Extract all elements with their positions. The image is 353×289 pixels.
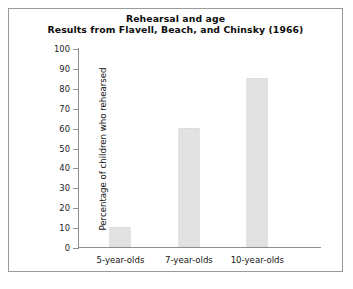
bar-2 [247,78,268,247]
chart-figure: Rehearsal and age Results from Flavell, … [8,8,343,272]
chart-title-block: Rehearsal and age Results from Flavell, … [9,14,342,36]
y-tick-label-10: 10 [59,223,70,233]
x-tick-label-1: 7-year-olds [165,255,213,265]
x-tick-label-2: 10-year-olds [231,255,284,265]
y-tick-label-90: 90 [59,64,70,74]
y-tick-90 [73,69,78,70]
y-tick-label-20: 20 [59,203,70,213]
y-tick-label-70: 70 [59,104,70,114]
y-tick-label-100: 100 [54,44,70,54]
bar-0 [110,227,131,247]
y-tick-label-30: 30 [59,183,70,193]
x-axis-line [78,247,321,248]
y-tick-50 [73,149,78,150]
plot-area: Percentage of children who rehearsed 0 1… [78,49,321,248]
y-tick-30 [73,188,78,189]
y-axis-line [78,48,79,249]
y-tick-label-40: 40 [59,163,70,173]
bar-1 [178,128,199,247]
y-tick-0 [73,248,78,249]
y-tick-label-80: 80 [59,84,70,94]
y-tick-80 [73,89,78,90]
y-tick-10 [73,228,78,229]
chart-subtitle: Results from Flavell, Beach, and Chinsky… [9,25,342,36]
y-tick-60 [73,129,78,130]
y-axis-title: Percentage of children who rehearsed [98,67,108,230]
y-tick-70 [73,109,78,110]
y-tick-label-0: 0 [65,243,70,253]
y-tick-100 [73,49,78,50]
y-tick-label-50: 50 [59,144,70,154]
y-tick-label-60: 60 [59,124,70,134]
x-tick-label-0: 5-year-olds [96,255,144,265]
y-tick-20 [73,208,78,209]
y-tick-40 [73,168,78,169]
